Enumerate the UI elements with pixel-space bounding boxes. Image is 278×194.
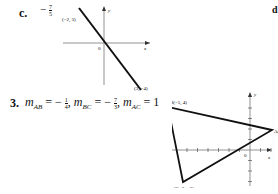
- m-ab: m: [25, 95, 34, 109]
- denominator: 5: [49, 11, 52, 17]
- point2-label: (3, −4): [134, 86, 148, 92]
- point-b-label: B(−5, 4): [172, 100, 187, 106]
- origin-label: 0: [98, 46, 101, 51]
- point-a-label: A(3, 2): [274, 129, 278, 135]
- m-ac-eq: = 1: [141, 95, 160, 109]
- x-axis-arrow-icon: [145, 41, 150, 45]
- x-label: x: [267, 155, 271, 160]
- point1-label: (−2, 3): [62, 17, 76, 23]
- y-axis-arrow-icon: [102, 6, 106, 11]
- axis-ticks: [187, 108, 278, 182]
- problem-d-label: d: [272, 4, 278, 15]
- answer-sign: −: [40, 3, 46, 15]
- x-label: x: [143, 46, 147, 51]
- problem-c-label: c.: [19, 6, 27, 21]
- problem-c-answer: − 7 5: [40, 3, 52, 17]
- graph-c: y x 0 (−2, 3) (3, −4): [60, 5, 150, 95]
- problem-3-slopes: mAB = − 14, mBC = − 73, mAC = 1: [25, 95, 159, 111]
- m-ab-sub: AB: [34, 103, 43, 111]
- y-label: y: [253, 92, 257, 97]
- y-label: y: [107, 8, 111, 13]
- m-ac: m: [123, 95, 132, 109]
- m-ac-sub: AC: [132, 103, 141, 111]
- origin-label: 0: [244, 153, 247, 158]
- triangle-abc: [172, 107, 272, 182]
- y-axis-arrow-icon: [248, 92, 252, 97]
- m-ab-eq: = −: [42, 95, 62, 109]
- problem-3-number: 3.: [10, 96, 19, 111]
- answer-fraction: 7 5: [49, 4, 52, 17]
- numerator: 7: [49, 4, 52, 11]
- graph-3: y x 0 B(−5, 4) A(3, 2) C(−2, −3): [172, 88, 278, 188]
- line-c: [79, 8, 141, 90]
- m-bc-eq: = −: [91, 95, 111, 109]
- point-c-label: C(−2, −3): [174, 186, 194, 188]
